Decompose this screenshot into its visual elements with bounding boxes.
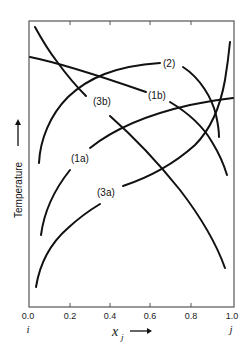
phase-diagram-chart: 0.0 0.2 0.4 0.6 0.8 1.0 i j x j Temperat… xyxy=(0,0,250,358)
x-axis-label: x xyxy=(111,324,119,339)
curve-3b-lower xyxy=(110,116,225,268)
curve-label-3b: (3b) xyxy=(93,96,111,107)
curve-label-1a: (1a) xyxy=(71,153,89,164)
x-axis-label-subscript: j xyxy=(120,332,124,342)
curve-label-1b: (1b) xyxy=(148,90,166,101)
curve-1b-lower xyxy=(170,102,227,175)
component-j-label: j xyxy=(227,323,232,335)
curve-1b xyxy=(30,57,146,92)
curve-2 xyxy=(39,63,160,163)
y-axis-label: Temperature xyxy=(13,161,24,218)
x-tick-4: 0.8 xyxy=(185,311,198,321)
x-tick-1: 0.2 xyxy=(64,311,77,321)
curve-3b xyxy=(35,27,86,96)
curve-3a-upper xyxy=(123,42,230,186)
x-tick-5: 1.0 xyxy=(226,311,239,321)
curve-label-3a: (3a) xyxy=(97,187,115,198)
curve-label-2: (2) xyxy=(163,58,175,69)
x-tick-3: 0.6 xyxy=(144,311,157,321)
x-tick-2: 0.4 xyxy=(104,311,117,321)
x-tick-0: 0.0 xyxy=(22,311,35,321)
y-axis-arrow-icon xyxy=(15,119,21,146)
curve-1a xyxy=(41,170,70,235)
component-i-label: i xyxy=(26,323,29,335)
x-axis-arrow-icon xyxy=(130,328,152,334)
